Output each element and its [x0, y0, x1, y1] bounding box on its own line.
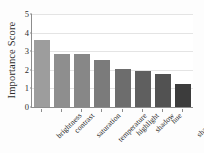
bar — [54, 54, 70, 107]
x-tick-mark — [81, 109, 82, 112]
y-tick-label: 4 — [25, 28, 29, 38]
bar — [115, 69, 131, 107]
x-axis-tick-labels: brightnesscontrastsaturationtemperatureh… — [31, 109, 193, 153]
y-axis-title: Importance Score — [6, 10, 20, 110]
x-tick-mark — [122, 109, 123, 112]
bar — [175, 84, 191, 107]
y-tick-label: 2 — [25, 65, 29, 75]
y-tick-label: 1 — [25, 83, 29, 93]
plot-area: 012345 — [31, 14, 193, 108]
y-tick-label: 0 — [25, 102, 29, 112]
bar — [94, 60, 110, 107]
x-tick-mark — [61, 109, 62, 112]
bar — [135, 71, 151, 107]
bar — [155, 74, 171, 107]
bar — [34, 40, 50, 107]
bar-series — [32, 14, 193, 107]
y-tick-label: 3 — [25, 46, 29, 56]
bar-chart-figure: Importance Score 012345 brightnesscontra… — [0, 0, 204, 153]
x-tick-mark — [182, 109, 183, 112]
x-tick-mark — [162, 109, 163, 112]
x-tick-mark — [41, 109, 42, 112]
bar — [74, 54, 90, 107]
y-tick-label: 5 — [25, 9, 29, 19]
x-tick-label: sharpness — [195, 111, 204, 139]
x-tick-mark — [142, 109, 143, 112]
x-tick-mark — [101, 109, 102, 112]
